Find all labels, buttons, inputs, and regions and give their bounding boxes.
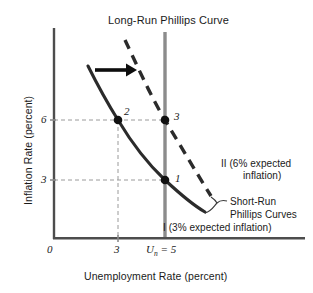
curve-I-label: I (3% expected inflation): [163, 222, 272, 233]
data-point-1: [161, 176, 170, 185]
point-label-1: 1: [175, 172, 181, 184]
data-point-2: [114, 116, 123, 125]
y-tick-label-6: 6: [41, 113, 47, 125]
x-tick-label-3: 3: [114, 243, 120, 255]
natural-rate-symbol: U: [146, 243, 154, 255]
point-label-2: 2: [124, 105, 130, 117]
y-axis-title: Inflation Rate (percent): [23, 96, 35, 205]
natural-rate-value: = 5: [158, 243, 176, 255]
guide-lines: [54, 120, 165, 238]
phillips-curve-figure: Long-Run Phillips Curve Inflation Rate (…: [0, 0, 313, 293]
x-tick-label-0: 0: [47, 243, 53, 255]
data-point-3: [161, 116, 170, 125]
short-run-curves-label-line2: Phillips Curves: [230, 209, 297, 220]
short-run-curves-label-line1: Short-Run: [230, 196, 276, 207]
point-label-3: 3: [174, 110, 180, 122]
x-tick-label-natural-rate: Un = 5: [146, 243, 176, 259]
shift-arrow-icon: [95, 64, 137, 77]
curve-II-label-line2: inflation): [243, 170, 281, 181]
x-axis-title: Unemployment Rate (percent): [84, 271, 227, 283]
chart-title: Long-Run Phillips Curve: [108, 14, 229, 26]
y-tick-label-3: 3: [41, 173, 47, 185]
curve-II-label-line1: II (6% expected: [221, 158, 291, 169]
short-run-curves-leader-line-upper: [211, 197, 217, 203]
